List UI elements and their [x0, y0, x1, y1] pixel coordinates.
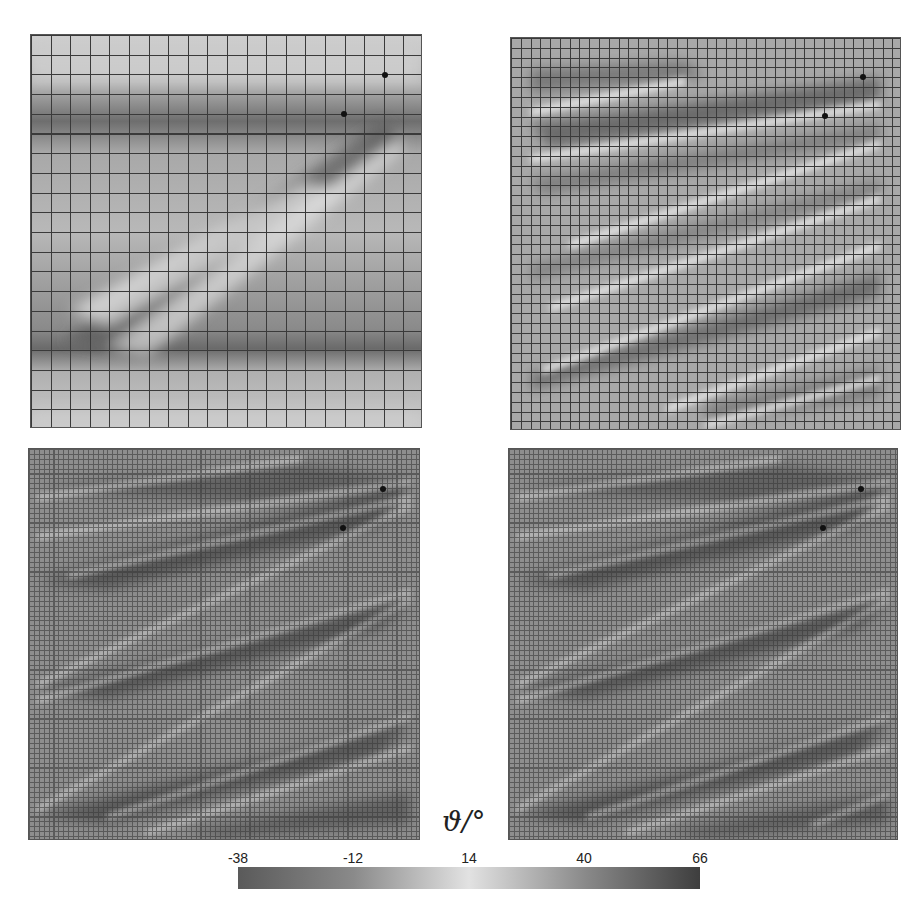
- marker-point-2: [822, 113, 828, 119]
- marker-point-1: [380, 486, 386, 492]
- colorbar-title: ϑ/°: [442, 805, 485, 838]
- marker-point-2: [341, 111, 347, 117]
- colorbar-tick-label: 66: [692, 850, 708, 866]
- colorbar-tick-label: -38: [228, 850, 248, 866]
- field-plot-top-right: [511, 38, 900, 429]
- panel-top-left: [30, 34, 422, 428]
- panel-top-right: [510, 37, 901, 430]
- marker-point-2: [340, 525, 346, 531]
- marker-point-1: [382, 72, 388, 78]
- field-plot-top-left: [31, 35, 421, 427]
- colorbar-tick-label: 40: [576, 850, 592, 866]
- colorbar-tick-label: 14: [461, 850, 477, 866]
- field-plot-bottom-right: [509, 449, 897, 839]
- colorbar-tick-label: -12: [343, 850, 363, 866]
- panel-bottom-left: [28, 448, 420, 840]
- colorbar: [238, 867, 700, 889]
- marker-point-1: [858, 486, 864, 492]
- marker-point-1: [860, 74, 866, 80]
- marker-point-2: [820, 525, 826, 531]
- field-plot-bottom-left: [29, 449, 419, 839]
- panel-bottom-right: [508, 448, 898, 840]
